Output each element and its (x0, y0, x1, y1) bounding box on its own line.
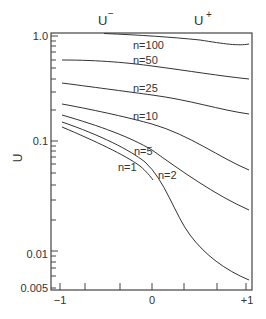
curves (62, 34, 249, 281)
x-axis-ticks (60, 283, 246, 290)
y-axis-ticks (51, 36, 58, 288)
y-tick-label-0.01: 0.01 (27, 248, 48, 260)
label-n10: n=10 (133, 110, 158, 122)
y-tick-label-0.1: 0.1 (33, 135, 48, 147)
chart: U − U + (0, 0, 266, 319)
svg-text:−: − (108, 8, 114, 19)
x-tick-label-plus1: +1 (241, 294, 254, 306)
svg-text:+: + (206, 9, 212, 20)
u-minus-annotation: U − (98, 8, 114, 28)
label-n2: n=2 (158, 169, 177, 181)
label-n100: n=100 (133, 39, 164, 51)
svg-text:U: U (98, 13, 107, 28)
curve-n5 (62, 115, 249, 210)
x-tick-label-0: 0 (149, 294, 155, 306)
label-n25: n=25 (133, 82, 158, 94)
label-n50: n=50 (133, 54, 158, 66)
y-axis-label: U (11, 154, 25, 163)
curve-n100 (104, 34, 249, 45)
curve-n2 (62, 122, 249, 280)
label-n1: n=1 (118, 161, 137, 173)
label-n5: n=5 (134, 145, 153, 157)
y-tick-label-1: 1.0 (33, 30, 48, 42)
plot-frame (51, 33, 252, 290)
y-tick-label-0.005: 0.005 (20, 282, 48, 294)
x-tick-label-minus1: −1 (54, 294, 67, 306)
svg-text:U: U (194, 13, 203, 28)
u-plus-annotation: U + (194, 9, 212, 28)
